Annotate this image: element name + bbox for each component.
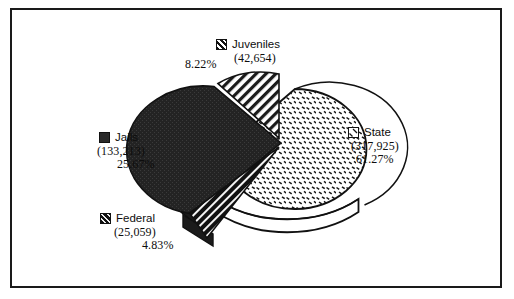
solid-dark-swatch-icon [99, 132, 110, 143]
label-juveniles-percent-wrap: 8.22% [185, 58, 217, 72]
dark-hatch-swatch-icon [100, 213, 111, 224]
sparse-dash-swatch-icon [348, 127, 359, 138]
label-jails-value: (133,213) [97, 145, 155, 159]
label-jails-percent: 25.67% [117, 158, 155, 172]
figure-frame: Juveniles (42,654) 8.22% State [0, 0, 514, 299]
label-juveniles-value: (42,654) [234, 52, 280, 66]
label-federal: Federal (25,059) 4.83% [100, 212, 174, 253]
label-state-value: (317,925) [351, 140, 399, 154]
label-federal-name: Federal [116, 212, 155, 226]
label-juveniles-percent: 8.22% [185, 57, 217, 71]
label-state: State (317,925) 61.27% [348, 126, 399, 167]
label-juveniles: Juveniles (42,654) [216, 38, 280, 65]
label-jails-name: Jails [115, 131, 138, 145]
label-federal-value: (25,059) [114, 226, 174, 240]
label-juveniles-name: Juveniles [232, 38, 280, 52]
pie-chart: Juveniles (42,654) 8.22% State [0, 0, 514, 299]
label-state-name: State [364, 126, 391, 140]
label-jails: Jails (133,213) 25.67% [99, 131, 155, 172]
label-state-percent: 61.27% [356, 153, 399, 167]
diagonal-stripe-swatch-icon [216, 39, 227, 50]
label-federal-percent: 4.83% [142, 239, 174, 253]
